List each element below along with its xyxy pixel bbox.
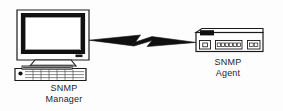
network-router-icon[interactable] bbox=[196, 29, 263, 52]
manager-agent-link[interactable] bbox=[89, 35, 196, 47]
monitor-power-led-icon bbox=[76, 55, 83, 58]
snmp-agent-label: SNMP Agent bbox=[185, 57, 271, 79]
snmp-manager-label-line1: SNMP bbox=[51, 83, 78, 93]
snmp-agent-label-line1: SNMP bbox=[215, 57, 242, 67]
network-diagram: SNMP Manager SNMP Agent bbox=[0, 0, 283, 111]
router-port bbox=[203, 43, 208, 47]
snmp-manager-label: SNMP Manager bbox=[14, 83, 114, 105]
keyboard-indicator-icon bbox=[18, 71, 22, 75]
monitor-screen bbox=[26, 18, 81, 50]
snmp-manager-label-line2: Manager bbox=[14, 94, 114, 105]
desktop-computer-icon[interactable] bbox=[15, 10, 89, 81]
lightning-bolt-icon bbox=[89, 35, 196, 47]
snmp-agent-label-line2: Agent bbox=[185, 68, 271, 79]
keyboard-function-row-fill bbox=[23, 67, 71, 69]
router-display-panel bbox=[200, 30, 214, 35]
